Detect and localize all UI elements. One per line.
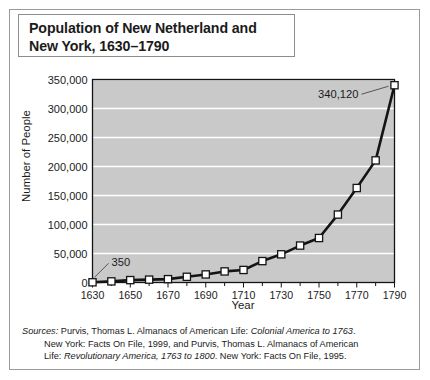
y-axis-tick-label: 250,000	[48, 132, 88, 144]
data-point-marker	[240, 266, 247, 273]
y-axis-tick-label: 50,000	[54, 248, 88, 260]
y-axis-label: Number of People	[20, 86, 32, 226]
source-text-1: Purvis, Thomas L. Almanacs of American L…	[61, 326, 251, 336]
plot-area	[93, 80, 395, 283]
data-point-marker	[164, 276, 171, 283]
data-point-marker	[202, 271, 209, 278]
data-point-marker	[353, 184, 360, 191]
source-tail-2: . New York: Facts On File, 1995.	[215, 351, 347, 361]
x-axis-label: Year	[92, 299, 394, 311]
data-point-marker	[259, 257, 266, 264]
data-point-marker	[89, 279, 96, 286]
source-citation: Sources: Purvis, Thomas L. Almanacs of A…	[22, 325, 412, 363]
y-axis-tick-label: 0	[81, 277, 87, 289]
source-italic-2: Revolutionary America, 1763 to 1800	[64, 351, 215, 361]
annotation-label-first-point: 350	[112, 256, 131, 268]
source-tail-1: .	[353, 326, 356, 336]
data-point-marker	[221, 268, 228, 275]
data-point-marker	[183, 273, 190, 280]
y-axis-tick-label: 100,000	[48, 219, 88, 231]
data-point-marker	[146, 276, 153, 283]
annotation-label-last-point: 340,120	[318, 88, 358, 100]
data-point-marker	[127, 277, 134, 284]
data-point-marker	[315, 234, 322, 241]
y-axis-tick-label: 350,000	[48, 74, 88, 86]
source-line-2: New York: Facts On File, 1999, and Purvi…	[22, 338, 412, 351]
source-italic-1: Colonial America to 1763	[251, 326, 353, 336]
y-axis-tick-label: 200,000	[48, 161, 88, 173]
line-chart: 050,000100,000150,000200,000250,000300,0…	[0, 0, 430, 320]
y-axis-tick-label: 300,000	[48, 103, 88, 115]
data-point-marker	[297, 242, 304, 249]
source-label: Sources:	[22, 326, 58, 336]
data-point-marker	[278, 251, 285, 258]
data-point-marker	[391, 82, 398, 89]
y-axis-tick-label: 150,000	[48, 190, 88, 202]
data-point-marker	[334, 211, 341, 218]
source-line-3: Life: Revolutionary America, 1763 to 180…	[22, 350, 412, 363]
data-point-marker	[108, 278, 115, 285]
source-line-1: Sources: Purvis, Thomas L. Almanacs of A…	[22, 325, 412, 338]
figure-container: Population of New Netherland and New Yor…	[0, 0, 430, 380]
source-text-3: Life:	[44, 351, 64, 361]
data-point-marker	[372, 157, 379, 164]
